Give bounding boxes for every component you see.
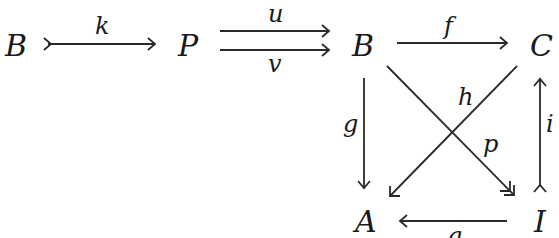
label-i: i	[546, 110, 554, 138]
arrow-i	[534, 78, 546, 192]
label-q: q	[447, 222, 462, 238]
label-v: v	[268, 50, 282, 78]
label-f: f	[442, 12, 457, 40]
label-p: p	[483, 130, 498, 158]
mono-tail-icon	[44, 38, 51, 50]
label-h: h	[458, 83, 473, 111]
node-B-left: B	[4, 28, 27, 63]
arrow-g	[358, 78, 370, 188]
node-C: C	[530, 28, 553, 63]
label-k: k	[95, 12, 110, 40]
commutative-diagram: B P B C A I k u v f g h p	[0, 0, 559, 238]
label-g: g	[343, 110, 358, 138]
label-u: u	[268, 0, 283, 28]
node-A: A	[352, 204, 377, 238]
node-B: B	[351, 28, 374, 63]
mono-tail-icon	[534, 185, 546, 192]
node-P: P	[177, 28, 199, 63]
node-I: I	[533, 204, 547, 238]
